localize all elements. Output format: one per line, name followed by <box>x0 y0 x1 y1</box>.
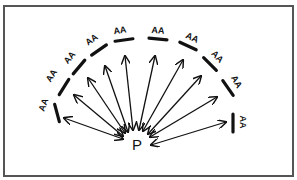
double-arrow <box>150 97 217 137</box>
double-arrow <box>125 56 133 130</box>
marker-label: AA <box>229 74 244 91</box>
marker-label: AA <box>83 31 100 47</box>
marker-label: AA <box>151 25 165 36</box>
marker-bar <box>115 39 133 42</box>
marker-bar <box>149 38 167 40</box>
double-arrow <box>139 56 155 130</box>
diagram-frame <box>4 6 293 176</box>
marker-label: AA <box>44 67 60 84</box>
marker-label: AA <box>62 49 78 66</box>
marker-bar <box>59 79 69 94</box>
marker-label: AA <box>184 30 200 45</box>
marker-bar <box>55 104 60 121</box>
double-arrow <box>105 66 128 132</box>
marker-bar <box>92 45 107 55</box>
radial-arrow-diagram: AAAAAAAAAAAAAAAAAAAA P <box>0 0 297 180</box>
marker-label: AA <box>209 48 226 65</box>
arrow-group <box>64 56 226 145</box>
marker-label: AA <box>36 96 50 112</box>
center-point-label: P <box>132 136 142 153</box>
marker-label: AA <box>113 24 128 36</box>
marker-bar <box>73 60 85 74</box>
diagram-canvas: AAAAAAAAAAAAAAAAAAAA P <box>0 0 297 180</box>
double-arrow <box>151 122 226 145</box>
marker-label: AA <box>238 116 248 129</box>
double-arrow <box>148 76 201 134</box>
